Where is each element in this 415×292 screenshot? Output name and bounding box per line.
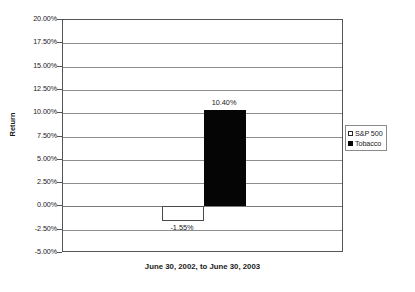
gridline [63, 43, 342, 44]
plot-area [62, 19, 343, 252]
y-tick-label: -2.50% [0, 225, 57, 233]
y-tick-label: 0.00% [0, 201, 57, 209]
y-tick-label: 10.00% [0, 108, 57, 116]
legend-item-tobacco: Tobacco [348, 138, 383, 148]
y-tick-label: 15.00% [0, 62, 57, 70]
legend-swatch-sp500-icon [348, 131, 353, 136]
chart-legend: S&P 500 Tobacco [345, 125, 387, 151]
gridline [63, 183, 342, 184]
y-tick-label: 5.00% [0, 155, 57, 163]
gridline [63, 137, 342, 138]
gridline [63, 67, 342, 68]
chart-figure: Return 20.00%17.50%15.00%12.50%10.00%7.5… [0, 0, 415, 292]
y-tick-label: -5.00% [0, 248, 57, 256]
bar-tobacco [204, 110, 246, 207]
y-tick-label: 7.50% [0, 132, 57, 140]
bar-value-label: -1.55% [142, 223, 222, 232]
gridline [63, 113, 342, 114]
y-tick-label: 2.50% [0, 178, 57, 186]
gridline [63, 160, 342, 161]
bar-value-label: 10.40% [184, 98, 264, 107]
y-tick-label: 20.00% [0, 15, 57, 23]
y-tick-label: 17.50% [0, 38, 57, 46]
legend-label-tobacco: Tobacco [355, 139, 381, 148]
x-axis-title: June 30, 2002, to June 30, 2003 [62, 262, 343, 271]
gridline [63, 90, 342, 91]
legend-label-sp500: S&P 500 [355, 129, 383, 138]
y-tick-mark [57, 252, 62, 253]
bar-s-p-500 [162, 206, 204, 220]
legend-swatch-tobacco-icon [348, 141, 353, 146]
y-axis-title: Return [8, 100, 17, 150]
y-tick-label: 12.50% [0, 85, 57, 93]
legend-item-sp500: S&P 500 [348, 128, 383, 138]
